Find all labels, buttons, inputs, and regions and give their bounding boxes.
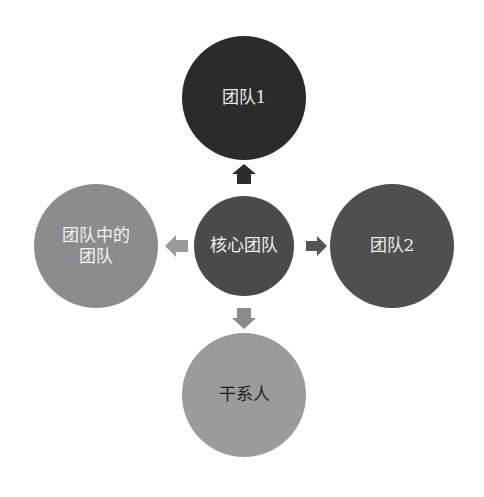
node-core-team-label: 核心团队 — [210, 235, 278, 256]
node-stakeholders: 干系人 — [182, 333, 306, 457]
node-team-1: 团队1 — [182, 36, 306, 160]
node-core-team: 核心团队 — [194, 196, 294, 296]
arrow-down-icon — [232, 308, 256, 329]
node-team-1-label: 团队1 — [222, 87, 267, 108]
node-team-2: 团队2 — [330, 184, 454, 308]
arrow-up-icon — [232, 164, 256, 184]
node-team-2-label: 团队2 — [370, 235, 415, 256]
node-team-of-teams-label-line2: 团队 — [62, 246, 130, 267]
node-team-of-teams: 团队中的 团队 — [34, 184, 158, 308]
arrow-left-icon — [165, 235, 188, 257]
arrow-right-icon — [306, 236, 327, 256]
node-team-of-teams-label-line1: 团队中的 — [62, 225, 130, 246]
node-stakeholders-label: 干系人 — [219, 384, 270, 405]
